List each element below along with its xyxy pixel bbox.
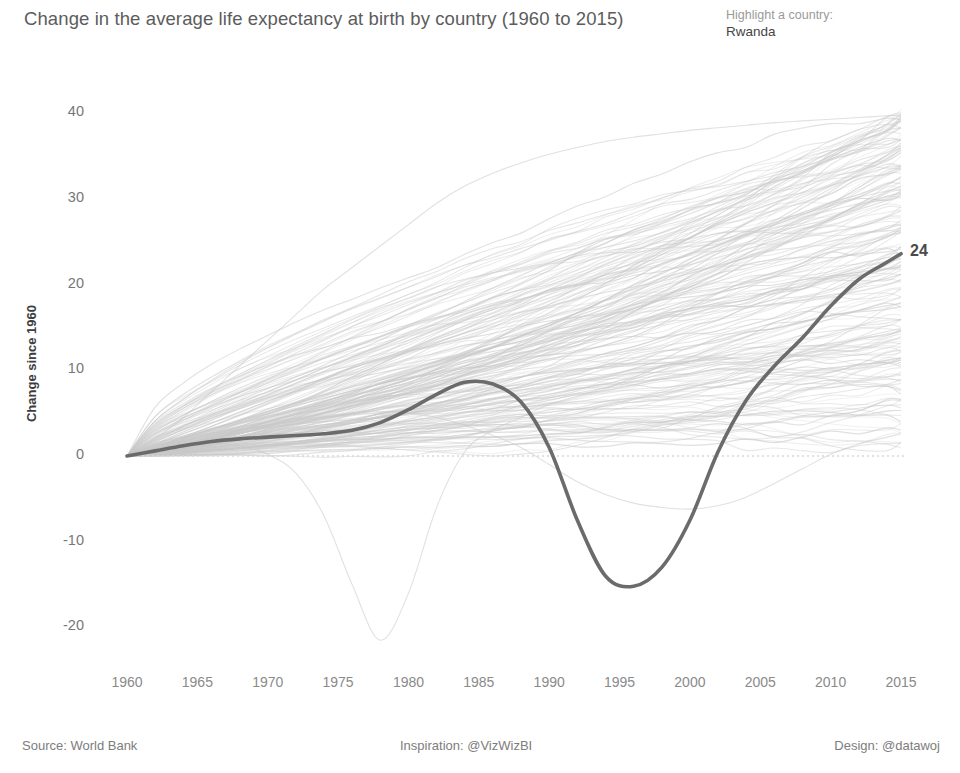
x-tick-label: 1970	[233, 674, 303, 690]
life-expectancy-chart: Change in the average life expectancy at…	[0, 0, 960, 773]
y-tick-label: -10	[38, 532, 84, 548]
x-tick-label: 2015	[866, 674, 936, 690]
x-tick-label: 2000	[655, 674, 725, 690]
highlight-country-value[interactable]: Rwanda	[726, 23, 936, 41]
y-tick-label: 20	[38, 275, 84, 291]
y-tick-label: -20	[38, 617, 84, 633]
x-tick-label: 1965	[162, 674, 232, 690]
y-tick-label: 30	[38, 189, 84, 205]
end-value-label: 24	[910, 242, 928, 260]
footer-design: Design: @datawoj	[834, 738, 940, 753]
footer-source: Source: World Bank	[22, 738, 137, 753]
x-tick-label: 1980	[373, 674, 443, 690]
x-tick-label: 1995	[585, 674, 655, 690]
x-tick-label: 1975	[303, 674, 373, 690]
highlight-country-label: Highlight a country:	[726, 7, 936, 23]
y-tick-label: 40	[38, 103, 84, 119]
x-tick-label: 1960	[92, 674, 162, 690]
highlight-country-control[interactable]: Highlight a country: Rwanda	[726, 7, 936, 41]
page-title: Change in the average life expectancy at…	[24, 8, 624, 30]
x-tick-label: 2005	[725, 674, 795, 690]
x-tick-label: 1985	[444, 674, 514, 690]
x-tick-label: 1990	[514, 674, 584, 690]
background-country-lines	[127, 109, 901, 640]
footer-inspiration: Inspiration: @VizWizBI	[400, 738, 532, 753]
y-tick-label: 0	[38, 446, 84, 462]
x-tick-label: 2010	[796, 674, 866, 690]
y-axis-title: Change since 1960	[24, 304, 39, 424]
plot-area	[0, 0, 960, 773]
y-tick-label: 10	[38, 360, 84, 376]
